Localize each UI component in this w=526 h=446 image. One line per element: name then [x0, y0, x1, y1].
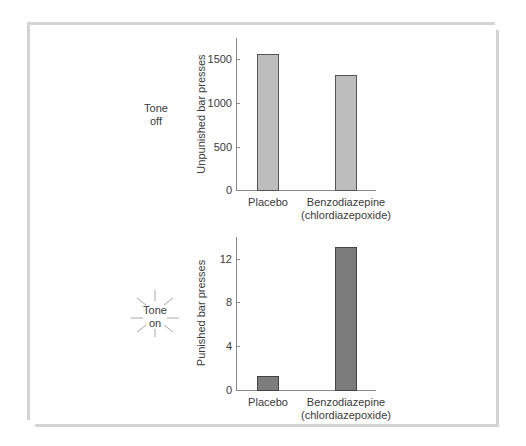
y-tick-label: 4 [226, 340, 232, 353]
y-tick-label: 1500 [208, 53, 232, 66]
y-tick [236, 346, 240, 347]
bar-benzodiazepine [335, 247, 357, 391]
y-tick-label: 8 [226, 296, 232, 309]
frame-right [496, 30, 499, 427]
x-label-benzodiazepine: Benzodiazepine [307, 196, 385, 209]
y-axis-title: Unpunished bar presses [195, 54, 207, 173]
frame-top [27, 22, 495, 25]
condition-label-tone-on-line2: on [149, 317, 161, 330]
y-tick [236, 103, 240, 104]
y-tick-label: 0 [226, 184, 232, 197]
frame-bottom [35, 424, 499, 427]
x-label-chlordiazepoxide: (chlordiazepoxide) [301, 409, 391, 422]
bar-placebo [257, 376, 279, 391]
x-label-benzodiazepine: Benzodiazepine [307, 396, 385, 409]
y-tick-label: 0 [226, 384, 232, 397]
y-tick-label: 1000 [208, 97, 232, 110]
condition-label-tone-off-line1: Tone [144, 102, 168, 115]
x-label-placebo: Placebo [248, 396, 288, 409]
x-label-chlordiazepoxide: (chlordiazepoxide) [301, 209, 391, 222]
frame-left [27, 22, 30, 420]
y-tick [236, 259, 240, 260]
y-tick-label: 500 [214, 141, 232, 154]
y-tick [236, 147, 240, 148]
bar-benzodiazepine [335, 75, 357, 191]
y-axis [236, 237, 237, 391]
y-tick [236, 59, 240, 60]
condition-label-tone-on-line1: Tone [143, 304, 167, 317]
y-tick-label: 12 [220, 253, 232, 266]
y-tick [236, 302, 240, 303]
bar-placebo [257, 54, 279, 191]
x-label-placebo: Placebo [248, 196, 288, 209]
condition-label-tone-off-line2: off [150, 115, 162, 128]
y-axis [236, 38, 237, 191]
y-axis-title: Punished bar presses [195, 260, 207, 366]
